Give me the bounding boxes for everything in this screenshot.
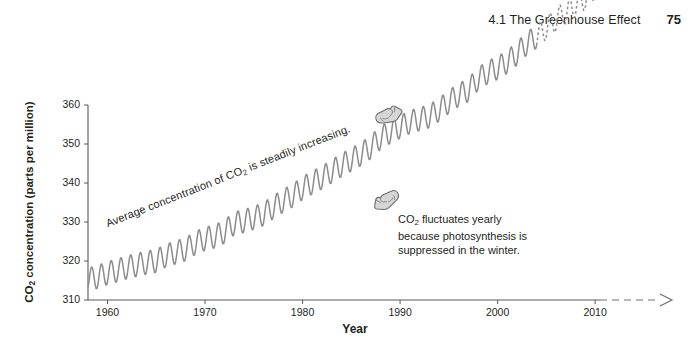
x-axis-tick-marks [108,300,596,304]
annotation-seasonal-line2: because photosynthesis is [398,229,558,244]
y-axis-tick-marks [84,105,88,300]
co2-projected-line [537,0,596,45]
co2-concentration-chart: CO2 concentration (parts per million) Ye… [0,0,695,348]
pointing-hand-right-icon [372,101,406,131]
annotation-seasonal-line1: CO2 fluctuates yearly [398,212,558,229]
x-axis-arrow-icon [660,294,672,306]
pointing-hand-left-icon [370,186,404,216]
plot-canvas [0,0,695,348]
annotation-seasonal-line3: suppressed in the winter. [398,243,558,258]
annotation-seasonal-text: CO2 fluctuates yearly because photosynth… [398,212,558,258]
annotation-seasonal-suffix: fluctuates yearly [419,213,502,225]
annotation-seasonal-subscript: 2 [415,218,419,227]
